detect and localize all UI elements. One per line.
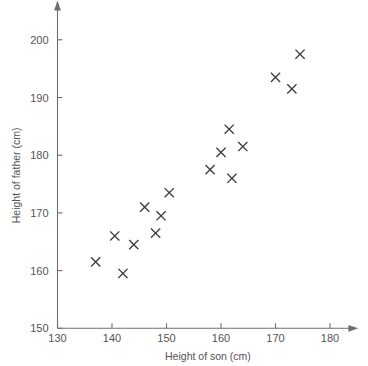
- y-axis-title: Height of father (cm): [10, 128, 22, 224]
- y-tick-label-180: 180: [30, 149, 48, 161]
- data-point: [151, 228, 160, 237]
- plot-area: 130140150160170180150160170180190200 Hei…: [0, 0, 368, 366]
- data-points-group: [91, 50, 305, 278]
- y-tick-label-190: 190: [30, 92, 48, 104]
- x-tick-label-180: 180: [321, 332, 339, 344]
- x-tick-label-170: 170: [266, 332, 284, 344]
- x-axis-arrow: [348, 325, 358, 332]
- y-tick-label-170: 170: [30, 207, 48, 219]
- x-tick-label-150: 150: [157, 332, 175, 344]
- x-tick-label-140: 140: [103, 332, 121, 344]
- y-tick-label-200: 200: [30, 34, 48, 46]
- data-point: [238, 142, 247, 151]
- x-tick-label-160: 160: [212, 332, 230, 344]
- data-point: [271, 73, 280, 82]
- y-tick-label-150: 150: [30, 322, 48, 334]
- data-point: [140, 203, 149, 212]
- scatter-chart: 130140150160170180150160170180190200 Hei…: [0, 0, 368, 366]
- data-point: [165, 188, 174, 197]
- ticks-group: [58, 40, 331, 329]
- data-point: [91, 257, 100, 266]
- y-tick-label-160: 160: [30, 265, 48, 277]
- data-point: [206, 165, 215, 174]
- data-point: [227, 174, 236, 183]
- data-point: [216, 148, 225, 157]
- data-point: [295, 50, 304, 59]
- data-point: [118, 269, 127, 278]
- data-point: [129, 240, 138, 249]
- data-point: [287, 84, 296, 93]
- x-axis-title: Height of son (cm): [165, 350, 251, 362]
- tick-labels-group: 130140150160170180150160170180190200: [30, 34, 339, 345]
- y-axis-arrow: [54, 0, 61, 10]
- data-point: [110, 231, 119, 240]
- data-point: [156, 211, 165, 220]
- x-tick-label-130: 130: [48, 332, 66, 344]
- data-point: [225, 125, 234, 134]
